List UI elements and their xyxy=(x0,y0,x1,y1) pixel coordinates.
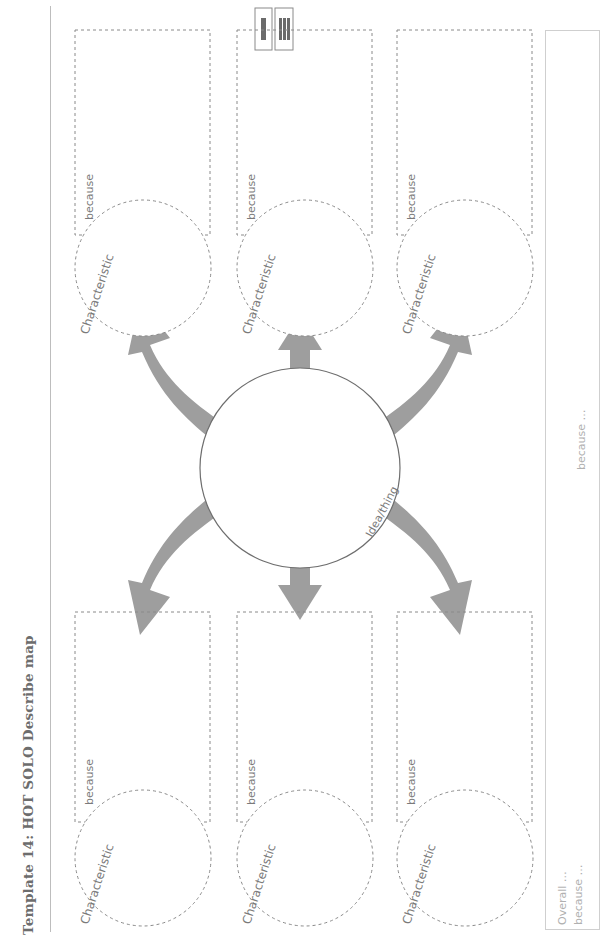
because-label-4: because xyxy=(83,759,96,805)
overall-box[interactable] xyxy=(545,30,600,930)
describe-map: Idea/thing because because because becau… xyxy=(0,0,608,936)
because-label-1: because xyxy=(83,174,96,220)
because-label-3: because xyxy=(405,174,418,220)
single-bar-icon xyxy=(255,8,272,50)
because-label-2: because xyxy=(245,174,258,220)
arrow-down-icon xyxy=(278,560,322,620)
because-label-5: because xyxy=(245,759,258,805)
arrow-lower-right-icon xyxy=(375,495,472,635)
because-label-6: because xyxy=(405,759,418,805)
arrow-lower-left-icon xyxy=(128,495,225,635)
three-bars-icon xyxy=(275,8,293,50)
